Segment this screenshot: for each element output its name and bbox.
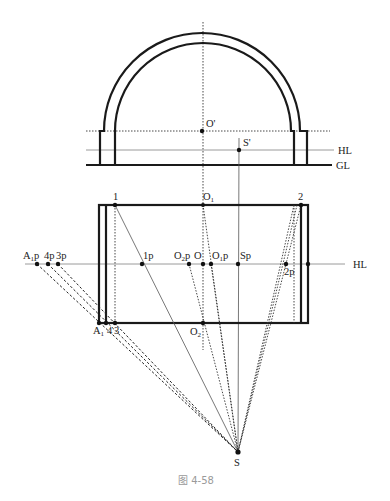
point-o-prime <box>200 129 204 133</box>
point-sp <box>236 262 240 266</box>
point-3p <box>56 262 60 266</box>
ray-2-to-s <box>238 205 301 452</box>
perspective-construction-diagram: O' S' HL GL <box>0 0 390 501</box>
point-o2p <box>187 262 191 266</box>
label-hl-elevation: HL <box>338 145 352 156</box>
label-2: 2 <box>298 191 303 202</box>
plan-view: 1 O1 2 A1p 4p 3p 1p O2p O O1p Sp 2p HL A… <box>23 191 367 468</box>
arch-inner <box>115 43 294 165</box>
label-4: 4 <box>107 325 113 336</box>
ray-o1-to-s <box>203 205 238 452</box>
label-1p: 1p <box>143 250 154 261</box>
ray-2b-to-s <box>238 205 297 452</box>
ray-o2p-to-s <box>189 264 238 452</box>
point-o1p <box>209 262 213 266</box>
point-o2 <box>201 321 205 325</box>
label-s-prime: S' <box>243 137 251 148</box>
point-wall-hl <box>306 262 310 266</box>
ray-1-to-s <box>115 205 238 452</box>
label-o: O <box>194 250 202 261</box>
label-o1: O1 <box>203 191 215 204</box>
label-1: 1 <box>113 191 118 202</box>
ray-a1p-to-s <box>37 264 238 452</box>
label-o2p: O2p <box>174 250 190 263</box>
label-3: 3 <box>114 325 119 336</box>
label-3p: 3p <box>56 250 67 261</box>
ray-3p-to-s <box>58 264 238 452</box>
point-1p <box>140 262 144 266</box>
point-o <box>201 262 205 266</box>
ray-2c-to-s <box>238 205 294 452</box>
label-o2: O2 <box>190 326 202 339</box>
label-a1p: A1p <box>23 250 39 263</box>
point-1 <box>113 203 117 207</box>
ray-4p-to-s <box>48 264 238 452</box>
label-o-prime: O' <box>206 118 216 129</box>
label-sp: Sp <box>240 250 251 261</box>
point-o1 <box>201 203 205 207</box>
figure-caption: 图 4-58 <box>178 475 214 486</box>
elevation-view: O' S' HL GL <box>86 22 352 452</box>
station-point-vertical <box>238 138 239 452</box>
point-s <box>235 449 240 454</box>
label-2p: 2p <box>284 266 295 277</box>
ray-o1p-to-s <box>211 264 238 452</box>
label-o1p: O1p <box>212 250 228 263</box>
arch-outer <box>100 33 307 165</box>
point-s-prime <box>237 148 241 152</box>
point-2 <box>299 203 303 207</box>
label-hl-plan: HL <box>353 259 367 270</box>
label-4p: 4p <box>44 250 55 261</box>
label-gl: GL <box>336 160 350 171</box>
label-s: S <box>234 457 240 468</box>
point-4p <box>46 262 50 266</box>
point-a1p <box>35 262 39 266</box>
label-a1: A1 <box>93 325 105 338</box>
